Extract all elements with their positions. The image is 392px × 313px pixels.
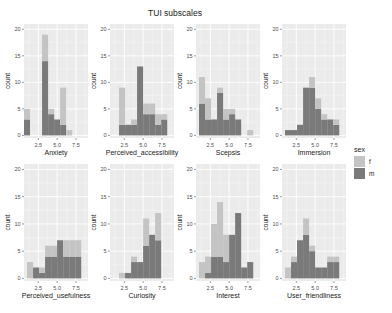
bar-f: [229, 109, 235, 114]
bar-f: [45, 246, 51, 257]
bar-m: [223, 119, 229, 135]
bar-m: [143, 246, 149, 279]
bar-m: [199, 104, 205, 136]
bar-m: [131, 125, 137, 136]
bar-f: [131, 257, 137, 262]
bar-f: [217, 88, 223, 93]
y-tick-label: 15: [272, 194, 278, 200]
bar-f: [199, 77, 205, 104]
bar-m: [149, 114, 155, 135]
bar-f: [217, 202, 223, 256]
bar-f: [143, 104, 149, 115]
bar-m: [217, 93, 223, 135]
y-tick-label: 5: [17, 248, 20, 254]
legend-label-f: f: [369, 158, 371, 165]
legend: sex f m: [354, 146, 374, 179]
bar-m: [205, 119, 211, 135]
bar-m: [333, 262, 339, 278]
bar-m: [303, 235, 309, 279]
bar-f: [205, 98, 211, 119]
bar-f: [27, 262, 33, 278]
x-tick-label: 2.5: [206, 142, 214, 148]
y-tick-label: 0: [275, 275, 278, 281]
bar-m: [137, 262, 143, 278]
bar-m: [211, 257, 217, 279]
bar-m: [315, 109, 321, 136]
bar-m: [217, 257, 223, 279]
bar-f: [309, 246, 315, 251]
bar-f: [42, 35, 48, 62]
x-axis-title: Scepsis: [216, 149, 241, 157]
bar-m: [143, 114, 149, 135]
bar-f: [66, 130, 72, 135]
bar-f: [333, 119, 339, 124]
bar-f: [161, 114, 167, 119]
bar-m: [155, 125, 161, 136]
legend-title: sex: [354, 146, 365, 153]
bar-m: [327, 262, 333, 278]
bar-f: [205, 257, 211, 273]
bar-m: [54, 119, 60, 135]
bar-f: [211, 224, 217, 257]
x-tick-label: 2.5: [206, 285, 214, 291]
x-tick-label: 5.0: [53, 142, 61, 148]
bar-f: [69, 240, 75, 256]
x-tick-label: 2.5: [34, 285, 42, 291]
y-tick-label: 15: [14, 194, 20, 200]
bar-f: [24, 109, 30, 120]
x-tick-label: 5.0: [225, 285, 233, 291]
bar-f: [247, 130, 253, 135]
bar-f: [75, 240, 81, 256]
y-tick-label: 15: [186, 194, 192, 200]
x-tick-label: 2.5: [292, 285, 300, 291]
y-tick-label: 5: [275, 248, 278, 254]
y-tick-label: 10: [272, 79, 278, 85]
y-axis-title: count: [4, 214, 11, 230]
bar-f: [321, 114, 327, 119]
bar-m: [297, 125, 303, 136]
y-tick-label: 20: [272, 166, 278, 172]
bar-f: [309, 77, 315, 88]
x-tick-label: 5.0: [311, 285, 319, 291]
x-tick-label: 2.5: [120, 142, 128, 148]
facet-panel-curiosity: 051015202.55.07.5countCuriosity: [90, 164, 174, 300]
bar-m: [119, 125, 125, 136]
y-tick-label: 10: [14, 221, 20, 227]
y-axis-title: count: [262, 214, 269, 230]
x-axis-title: Perceived_usefulness: [22, 292, 91, 300]
bar-f: [285, 268, 291, 279]
bar-f: [199, 262, 205, 278]
x-axis-title: Perceived_accessibility: [106, 149, 179, 157]
x-tick-label: 7.5: [158, 142, 166, 148]
facet-panel-perceived_accessibility: 051015202.55.07.5countPerceived_accessib…: [90, 24, 179, 157]
y-axis-title: count: [90, 73, 97, 89]
bar-f: [223, 109, 229, 120]
x-tick-label: 7.5: [244, 285, 252, 291]
bar-f: [143, 218, 149, 245]
y-tick-label: 0: [189, 132, 192, 138]
y-tick-label: 15: [272, 53, 278, 59]
y-tick-label: 20: [100, 26, 106, 32]
y-tick-label: 0: [103, 275, 106, 281]
facet-panel-perceived_usefulness: 051015202.55.07.5countPerceived_usefulne…: [4, 164, 91, 300]
y-tick-label: 0: [17, 132, 20, 138]
y-tick-label: 0: [17, 275, 20, 281]
y-tick-label: 5: [189, 106, 192, 112]
y-tick-label: 0: [103, 132, 106, 138]
y-tick-label: 10: [100, 79, 106, 85]
bar-m: [333, 125, 339, 136]
bar-m: [211, 119, 217, 135]
y-tick-label: 20: [14, 26, 20, 32]
bar-f: [149, 104, 155, 115]
bar-m: [69, 257, 75, 279]
bar-f: [333, 257, 339, 262]
bar-m: [235, 213, 241, 278]
legend-label-m: m: [369, 170, 374, 177]
y-tick-label: 20: [186, 26, 192, 32]
bar-f: [155, 213, 161, 240]
facet-panel-interest: 051015202.55.07.5countInterest: [176, 164, 260, 299]
bar-f: [39, 268, 45, 273]
bar-m: [291, 262, 297, 278]
bar-m: [149, 235, 155, 279]
y-axis-title: count: [90, 214, 97, 230]
